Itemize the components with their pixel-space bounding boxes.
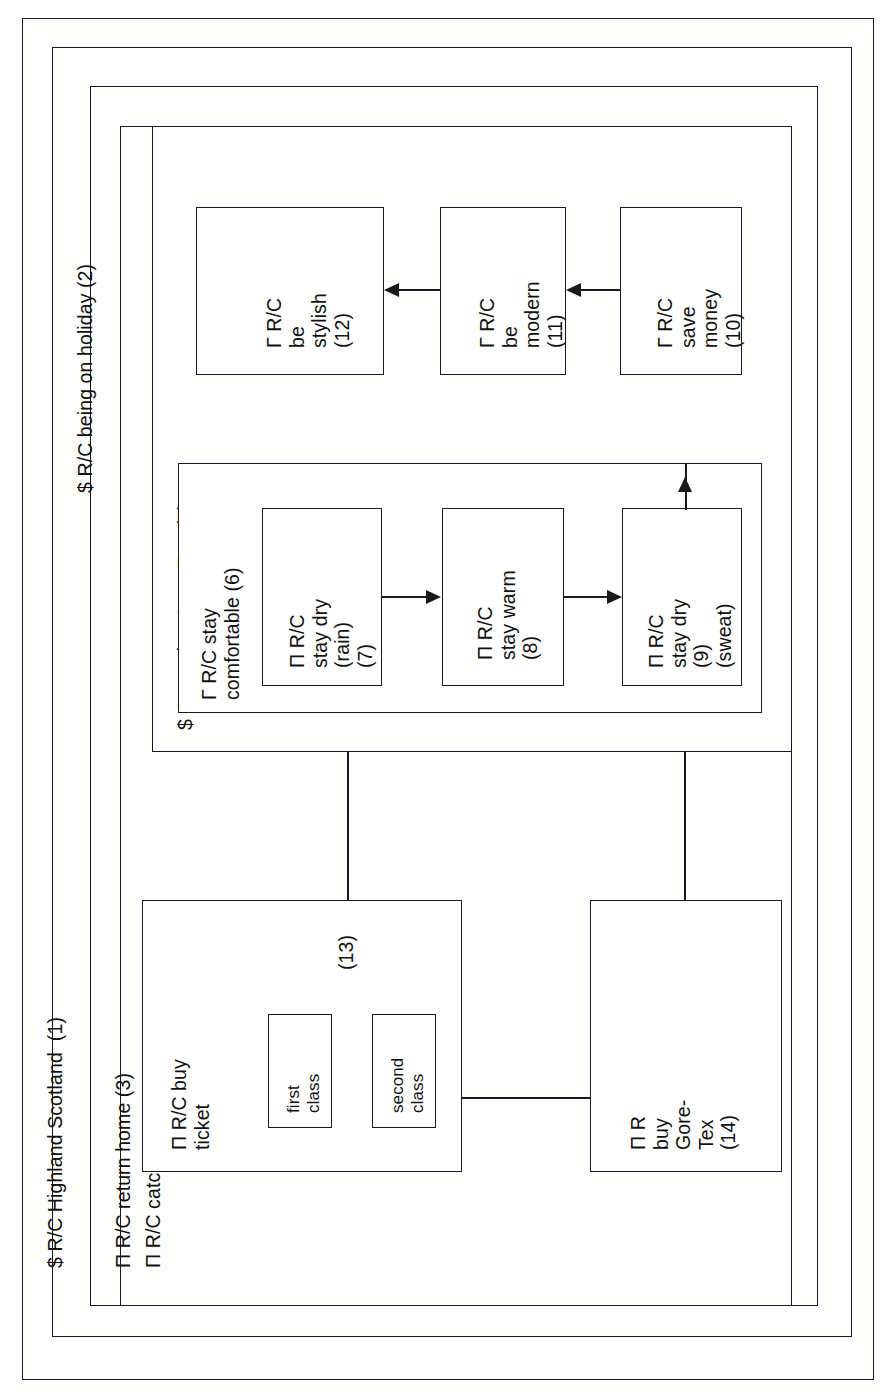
- box-label-be-stylish: Γ R/C be stylish (12): [263, 293, 353, 348]
- box-label-stay-dry-sweat: Π R/C stay dry (9) (sweat): [645, 599, 735, 668]
- sublabel-second-class: second class: [388, 1058, 427, 1113]
- box-label-stay-warm: Π R/C stay warm (8): [474, 570, 542, 660]
- frame-label-highland-scotland: $ R/C Highland Scotland (1): [44, 1017, 67, 1268]
- box-be-stylish[interactable]: [196, 207, 384, 375]
- box-label-save-money: Γ R/C save money (10): [654, 289, 744, 348]
- arrowhead-money-to-modern-icon: [566, 283, 581, 297]
- box-label-buy-ticket: Π R/C buy ticket: [168, 1059, 213, 1150]
- sublabel-first-class: first class: [284, 1074, 323, 1113]
- connector-gore-tex-to-buy-ticket: [347, 752, 349, 902]
- box-tag-buy-ticket: (13): [335, 935, 358, 970]
- box-label-be-modern: Γ R/C be modern (11): [476, 281, 566, 348]
- arrowhead-modern-to-stylish-icon: [384, 283, 399, 297]
- frame-label-return-home: Π R/C return home (3): [112, 1073, 135, 1268]
- frame-label-being-on-holiday: $ R/C being on holiday (2): [74, 264, 97, 493]
- arrowhead-dry-sweat-upward-icon: [678, 477, 692, 492]
- connector-modern-to-stylish: [392, 289, 440, 291]
- arrowhead-warm-to-dry-sweat-icon: [607, 590, 622, 604]
- box-label-stay-comfortable: Γ R/C stay comfortable (6): [198, 567, 243, 700]
- diagram-canvas: $ R/C Highland Scotland (1) $ R/C being …: [0, 0, 894, 1394]
- box-label-stay-dry-rain: Π R/C stay dry (rain) (7): [286, 599, 376, 668]
- arrowhead-dry-rain-to-warm-icon: [426, 590, 441, 604]
- connector-buy-ticket-to-buy-gore-tex: [462, 1097, 590, 1099]
- connector-warm-to-dry-sweat: [564, 596, 608, 598]
- box-label-buy-gore-tex: Π R buy Gore- Tex (14): [627, 1100, 740, 1150]
- connector-gore-tex-to-buy-gore-tex: [684, 752, 686, 902]
- connector-dry-rain-to-warm: [382, 596, 426, 598]
